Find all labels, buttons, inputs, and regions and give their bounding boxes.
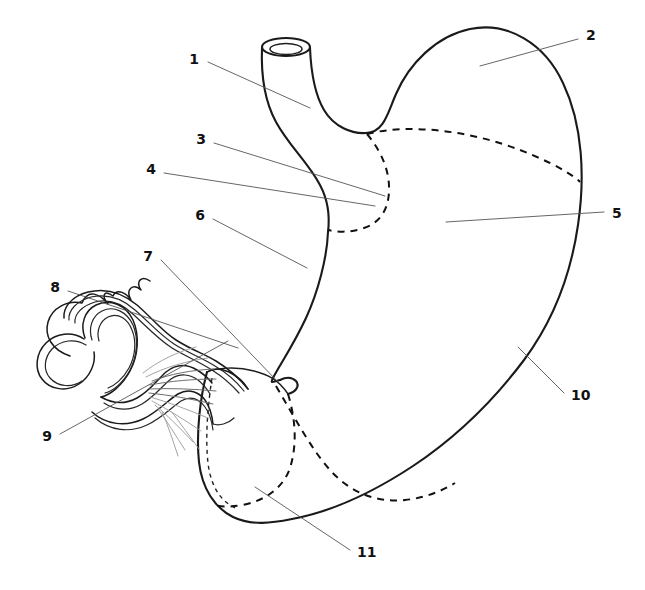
label-3[interactable]: 3 — [196, 131, 206, 147]
fundus-and-greater-curvature — [292, 27, 582, 519]
label-8[interactable]: 8 — [50, 279, 60, 295]
duodenum-shape — [37, 279, 248, 430]
duodenum-upper-muscularis — [69, 296, 244, 391]
fundus-floor-hidden-line — [367, 129, 580, 182]
duodenum-left-stub-inner — [45, 341, 86, 386]
esophagus-wall-right — [310, 48, 366, 133]
label-9[interactable]: 9 — [42, 428, 52, 444]
duodenum-bottom-serosa — [95, 398, 213, 430]
leader-5 — [446, 212, 604, 222]
label-2[interactable]: 2 — [586, 27, 596, 43]
stomach-body-outline — [272, 27, 582, 519]
ruga-12 — [172, 412, 199, 449]
esophagus-rim-outer — [262, 38, 310, 56]
duodenal-bulb-inner — [90, 309, 136, 393]
duodenal-bulb-lumen — [98, 315, 135, 388]
label-10[interactable]: 10 — [571, 387, 591, 403]
leader-2 — [480, 39, 578, 66]
leader-10 — [518, 347, 564, 393]
leader-6 — [213, 219, 307, 268]
ruga-7 — [155, 405, 193, 442]
label-6[interactable]: 6 — [195, 207, 205, 223]
hidden-contours — [214, 129, 580, 506]
leader-1 — [208, 62, 310, 108]
leader-lines — [60, 39, 604, 550]
pyloric-antrum-shape — [198, 368, 292, 523]
antrum-floor-hidden-line — [276, 386, 455, 500]
label-7[interactable]: 7 — [143, 248, 153, 264]
duodenum-pylorus-junction-bottom — [213, 418, 234, 425]
label-4[interactable]: 4 — [146, 161, 156, 177]
label-1[interactable]: 1 — [189, 51, 199, 67]
ruga-10 — [146, 358, 208, 377]
leader-4 — [164, 173, 375, 206]
esophagus-wall-left — [262, 48, 329, 232]
stomach-diagram: 1 2 3 4 5 6 7 8 9 10 11 — [0, 0, 645, 590]
label-11[interactable]: 11 — [357, 544, 376, 560]
esophagus-shape — [262, 38, 366, 232]
label-5[interactable]: 5 — [612, 205, 622, 221]
antrum-posterior-hidden-line — [214, 394, 295, 507]
cardia-hidden-line — [328, 134, 389, 232]
antrum-cut-rim-hidden — [207, 378, 238, 509]
esophagus-lumen — [270, 44, 302, 55]
lesser-curvature — [272, 232, 328, 382]
antrum-left-wall — [198, 372, 292, 523]
leader-3 — [214, 143, 385, 196]
anatomy-illustration: 1 2 3 4 5 6 7 8 9 10 11 — [0, 0, 645, 590]
leader-11 — [255, 487, 350, 550]
